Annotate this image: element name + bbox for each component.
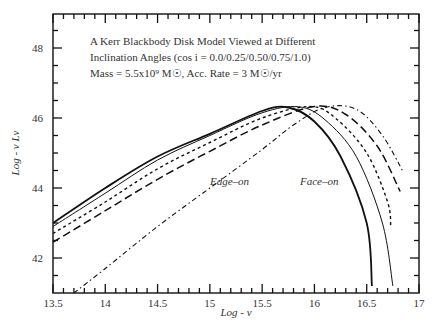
series-line-2: [53, 107, 391, 234]
x-tick-label: 14: [100, 297, 112, 309]
y-tick-label: 44: [32, 182, 44, 194]
x-tick-label: 16.5: [357, 297, 377, 309]
x-tick-label: 15.5: [253, 297, 273, 309]
y-tick-label: 48: [32, 42, 44, 54]
y-tick-label: 46: [32, 112, 44, 124]
annotation-line-1: A Kerr Blackbody Disk Model Viewed at Di…: [90, 35, 315, 47]
x-axis-title: Log - ν: [219, 306, 251, 318]
x-tick-label: 13.5: [43, 297, 63, 309]
series-line-1: [53, 106, 393, 286]
label-edge-on: Edge–on: [209, 175, 250, 187]
series-line-4: [74, 106, 403, 293]
spectrum-chart: 13.51414.51515.51616.51742444648 Log - ν…: [0, 0, 435, 327]
curves: [53, 106, 403, 293]
x-tick-label: 16: [309, 297, 321, 309]
x-tick-label: 15: [204, 297, 216, 309]
y-axis-title: Log - ν Lν: [9, 130, 21, 176]
label-face-on: Face–on: [299, 175, 339, 187]
annotation-line-2: Inclination Angles (cos i = 0.0/0.25/0.5…: [90, 51, 311, 64]
x-tick-label: 17: [414, 297, 426, 309]
x-tick-label: 14.5: [148, 297, 168, 309]
annotation-line-3: Mass = 5.5x10⁹ M☉, Acc. Rate = 3 M☉/yr: [90, 67, 282, 79]
y-tick-label: 42: [32, 252, 43, 264]
